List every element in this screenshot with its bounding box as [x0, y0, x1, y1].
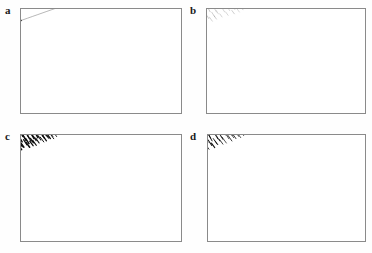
field-dash	[209, 17, 212, 21]
field-dash	[216, 136, 220, 141]
radial-curve	[21, 9, 107, 19]
panel-label-c: c	[5, 131, 10, 142]
field-dash	[226, 12, 228, 15]
stroke-field	[207, 9, 243, 23]
field-dash	[236, 9, 239, 12]
panel-label-d: d	[190, 131, 196, 142]
field-dash	[220, 14, 222, 17]
panel-c	[20, 134, 182, 242]
field-dash	[232, 10, 234, 13]
field-dash	[21, 138, 22, 142]
stroke-field	[21, 135, 57, 150]
field-dash	[220, 139, 223, 144]
field-dash	[208, 9, 210, 12]
field-dash	[233, 135, 236, 139]
field-dash	[53, 135, 57, 137]
panel-b	[206, 8, 366, 114]
field-dash	[208, 144, 209, 149]
panel-d	[207, 134, 366, 242]
panel-a	[20, 8, 182, 114]
panel-canvas-b	[207, 9, 366, 114]
field-dash	[241, 9, 243, 10]
field-dash	[207, 14, 209, 19]
panel-canvas-c	[21, 135, 182, 242]
field-dash	[227, 9, 230, 11]
field-dash	[214, 16, 216, 19]
contour-curve	[21, 9, 123, 21]
contour-curve	[21, 9, 115, 36]
panel-label-b: b	[190, 5, 196, 16]
panel-canvas-d	[208, 135, 366, 242]
field-dash	[215, 141, 218, 145]
field-dash	[240, 135, 243, 136]
panel-canvas-a	[21, 9, 182, 114]
field-dash	[209, 135, 212, 141]
radial-curve	[21, 9, 110, 35]
field-dash	[222, 9, 224, 12]
field-dash	[222, 137, 226, 143]
figure-root: abcd	[0, 0, 372, 253]
field-dash	[235, 135, 239, 136]
panel-label-a: a	[5, 5, 11, 16]
stroke-field	[208, 135, 244, 149]
